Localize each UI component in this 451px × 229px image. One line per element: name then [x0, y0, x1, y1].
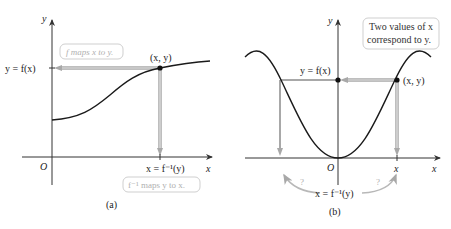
point-label-b: (x, y): [403, 75, 425, 87]
inverse-function-diagram: y x O y = f(x) (x, y) x = f⁻¹(y) f maps …: [0, 0, 451, 229]
question-mark-left: ?: [300, 177, 304, 187]
x-tick-label-b: x: [393, 163, 399, 174]
point-label-a: (x, y): [150, 52, 172, 64]
x-axis-label-b: x: [431, 163, 437, 174]
note-forward: f maps x to y.: [66, 47, 113, 57]
point-xy-b: [394, 77, 399, 82]
mapping-arrow-vertical-b: [394, 80, 400, 156]
origin-label-a: O: [40, 161, 47, 172]
point-yfx-b: [335, 77, 340, 82]
note-two-values-line1: Two values of x: [369, 21, 433, 32]
note-two-values-line2: correspond to y.: [367, 34, 431, 45]
y-value-label-a: y = f(x): [5, 63, 36, 75]
x-value-label-b: x = f⁻¹(y): [315, 188, 354, 200]
point-xy-a: [157, 65, 162, 70]
y-axis-label-b: y: [327, 15, 333, 26]
x-axis-label-a: x: [205, 163, 211, 174]
panel-a: y x O y = f(x) (x, y) x = f⁻¹(y) f maps …: [5, 13, 212, 211]
panel-b: ? ? y x O x y = f(x) (x, y) x = f⁻¹(y) T…: [245, 15, 440, 218]
y-value-label-b: y = f(x): [300, 65, 331, 77]
x-value-label-a: x = f⁻¹(y): [146, 163, 185, 175]
origin-label-b: O: [327, 162, 334, 173]
mapping-arrow-horizontal-a: [54, 65, 160, 71]
y-axis-label-a: y: [41, 13, 47, 24]
caption-b: (b): [329, 206, 341, 218]
caption-a: (a): [106, 199, 117, 211]
question-mark-right: ?: [376, 177, 380, 187]
mapping-arrow-vertical-a: [157, 68, 163, 156]
mapping-arrow-horizontal-b: [340, 77, 397, 83]
curve-f-a: [52, 61, 210, 120]
note-inverse: f⁻¹ maps y to x.: [128, 180, 185, 190]
